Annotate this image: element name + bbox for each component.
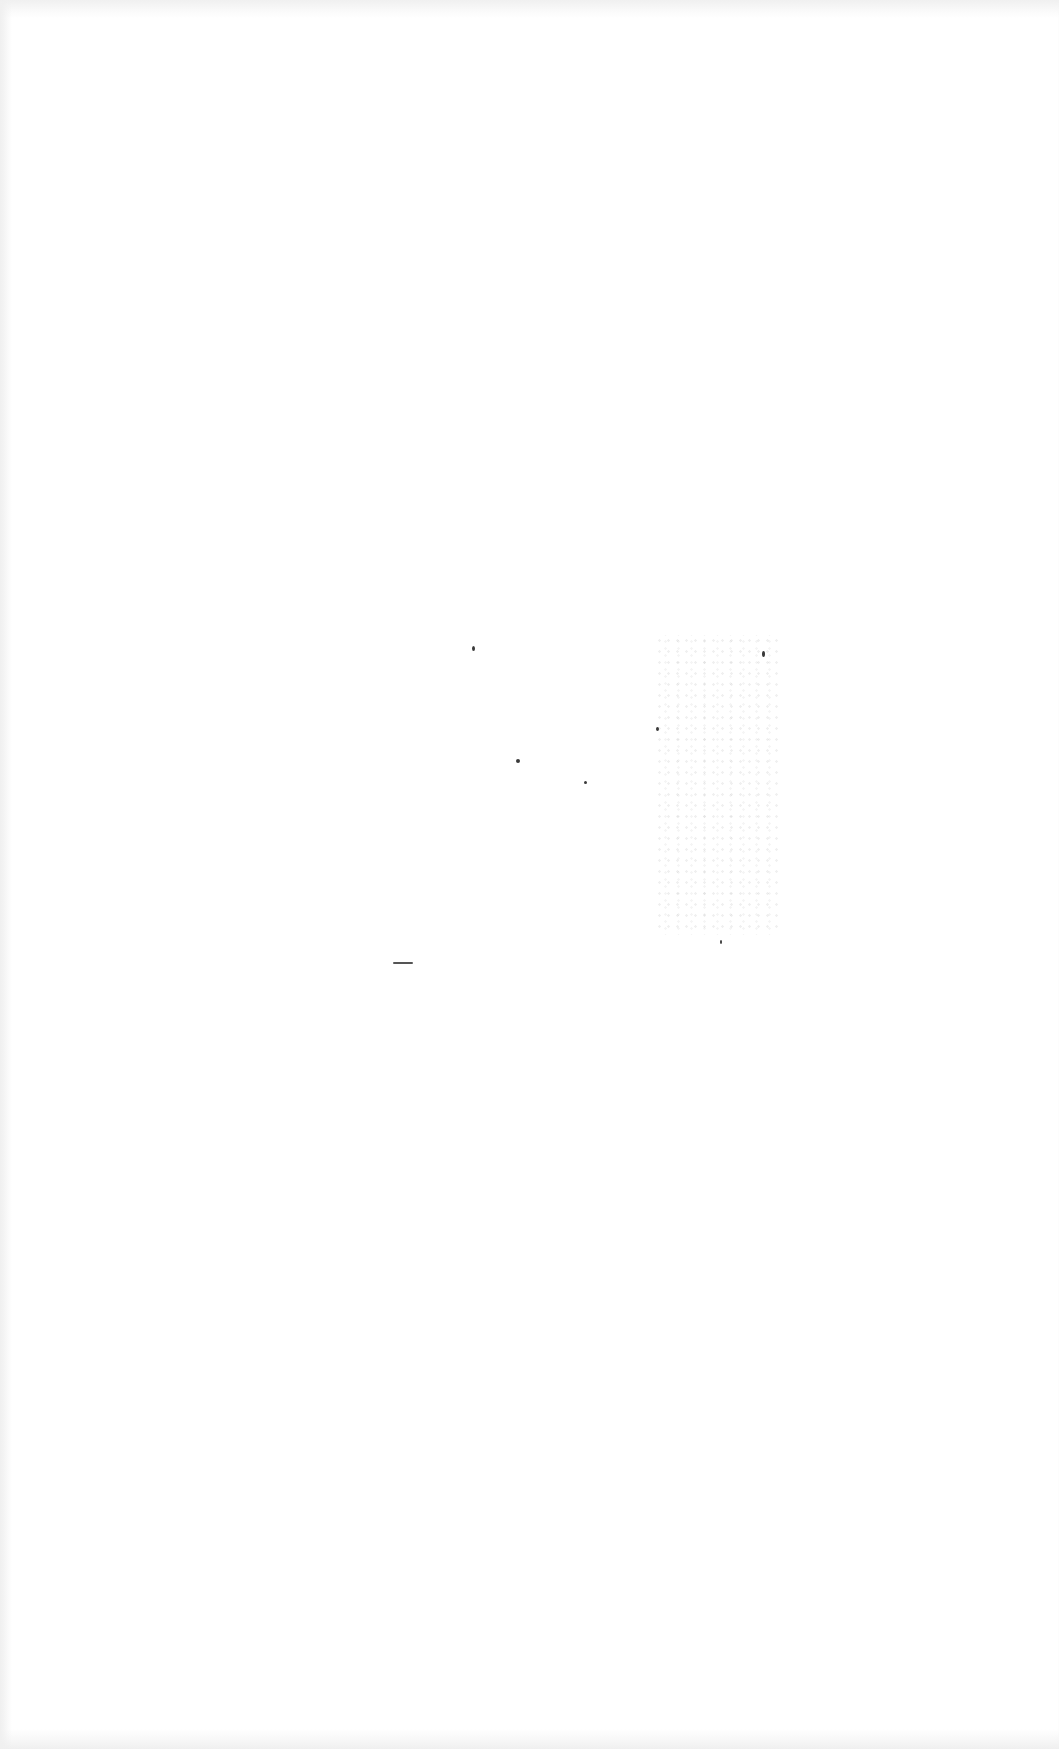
scan-edge-top <box>0 0 1059 18</box>
scan-speck <box>472 646 475 651</box>
scan-edge-left <box>0 0 12 1749</box>
scan-speck <box>656 727 659 731</box>
blank-scanned-page <box>0 0 1059 1749</box>
scan-speck <box>720 940 722 944</box>
scan-speck <box>584 781 587 784</box>
scan-speck <box>762 651 765 657</box>
scan-noise-patch <box>655 635 780 935</box>
scan-dash-mark <box>393 962 413 964</box>
scan-edge-bottom <box>0 1729 1059 1749</box>
scan-speck <box>516 759 520 763</box>
